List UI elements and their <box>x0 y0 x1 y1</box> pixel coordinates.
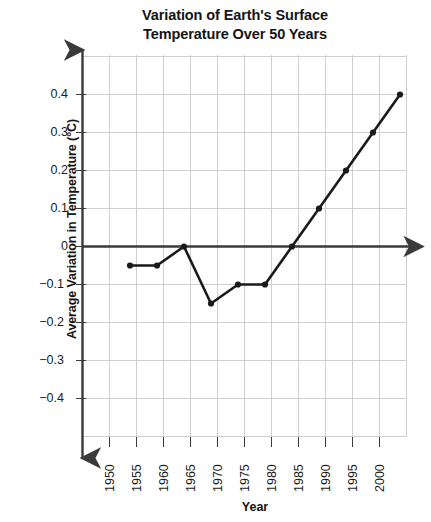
data-point <box>316 205 322 211</box>
y-axis-ticks <box>76 95 86 399</box>
data-point-markers <box>127 91 403 306</box>
data-point <box>343 167 349 173</box>
data-point <box>262 281 268 287</box>
data-point <box>235 281 241 287</box>
data-point <box>370 129 376 135</box>
y-tick-label: 0 <box>24 240 68 253</box>
data-point <box>289 243 295 249</box>
x-tick-label: 2000 <box>374 464 387 492</box>
y-tick-label: 0.1 <box>24 202 68 215</box>
y-tick-label: −0.1 <box>20 278 64 291</box>
data-point <box>397 91 403 97</box>
x-tick-label: 1960 <box>158 464 171 492</box>
x-axis-ticks <box>110 437 380 447</box>
y-tick-label: −0.4 <box>20 392 64 405</box>
x-tick-label: 1995 <box>347 464 360 492</box>
data-point <box>208 300 214 306</box>
y-tick-label: −0.2 <box>20 316 64 329</box>
x-tick-label: 1985 <box>293 464 306 492</box>
x-tick-label: 1950 <box>104 464 117 492</box>
y-tick-label: 0.2 <box>24 164 68 177</box>
x-tick-label: 1965 <box>185 464 198 492</box>
x-tick-label: 1975 <box>239 464 252 492</box>
y-tick-label: 0.3 <box>24 126 68 139</box>
x-tick-label: 1955 <box>131 464 144 492</box>
x-tick-label: 1970 <box>212 464 225 492</box>
y-tick-label: 0.4 <box>24 88 68 101</box>
data-point <box>127 262 133 268</box>
data-point <box>181 243 187 249</box>
chart-container: Variation of Earth's Surface Temperature… <box>0 0 431 522</box>
data-line-series <box>130 95 400 304</box>
x-tick-label: 1990 <box>320 464 333 492</box>
x-tick-label: 1980 <box>266 464 279 492</box>
data-point <box>154 262 160 268</box>
y-tick-label: −0.3 <box>20 354 64 367</box>
plot-area <box>0 0 431 522</box>
